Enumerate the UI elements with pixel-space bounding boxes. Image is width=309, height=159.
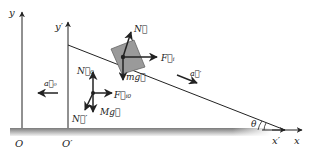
y-prime-axis-label: y′ bbox=[54, 21, 64, 32]
wedge-normal-block-label: N⃗₀ bbox=[76, 66, 94, 76]
origin-prime-label: O′ bbox=[62, 138, 73, 149]
ground-frame-axes: y x O bbox=[8, 7, 302, 149]
x-axis-label: x bbox=[294, 135, 300, 146]
block-weight-label: mg⃗ bbox=[126, 72, 146, 82]
y-axis-label: y bbox=[8, 7, 15, 18]
block: N⃗ F⃗ᵢ mg⃗ bbox=[111, 24, 175, 82]
block-relative-acceleration-label: a⃗′ bbox=[190, 69, 202, 78]
x-prime-axis-label: x′ bbox=[272, 135, 281, 146]
wedge-ground-normal-label: N⃗′ bbox=[71, 114, 87, 124]
origin-label: O bbox=[15, 138, 23, 149]
wedge-acceleration-label: a⃗₀ bbox=[44, 79, 58, 88]
ground bbox=[10, 128, 272, 136]
block-normal-label: N⃗ bbox=[133, 24, 147, 34]
wedge-inertial-label: F⃗ᵢ₀ bbox=[113, 90, 131, 100]
physics-diagram: y x O y′ x′ O′ θ a⃗₀ N⃗ F⃗ᵢ mg⃗ a⃗′ bbox=[0, 0, 309, 159]
incline-surface bbox=[68, 45, 285, 130]
block-inertial-label: F⃗ᵢ bbox=[160, 53, 175, 63]
angle-label: θ bbox=[251, 119, 257, 129]
block-relative-acceleration: a⃗′ bbox=[177, 69, 202, 83]
wedge-acceleration: a⃗₀ bbox=[38, 79, 58, 93]
wedge-weight-label: Mg⃗ bbox=[99, 107, 120, 117]
